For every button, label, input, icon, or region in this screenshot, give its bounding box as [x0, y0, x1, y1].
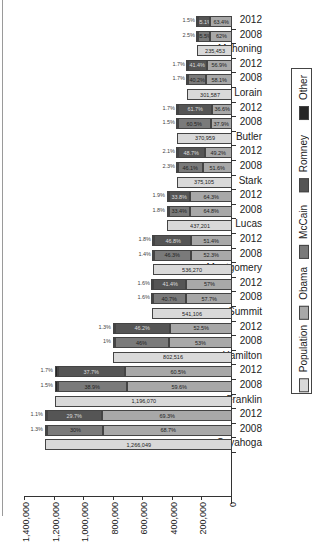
obama-pct-label: 37.9%	[214, 121, 230, 127]
population-bar: 235,453	[221, 45, 232, 56]
romney-segment: 29.7%	[47, 410, 103, 421]
mccain-segment: 60.5%	[178, 118, 211, 129]
year-label: 2008	[240, 160, 262, 171]
obama-segment: 56.9%	[207, 60, 232, 71]
rep-pct-label: 35.1%	[198, 19, 210, 25]
population-value: 536,270	[182, 267, 202, 273]
other-pct-label: 1.8%	[153, 207, 166, 213]
obama-pct-label: 56.9%	[212, 62, 228, 68]
election-bar: 36.6%61.7%	[221, 104, 232, 115]
obama-segment: 68.7%	[103, 425, 232, 436]
year-label: 2008	[240, 379, 262, 390]
mccain-segment: 35.5%	[198, 31, 210, 42]
value-tick-label: 1,000,000	[80, 502, 90, 542]
population-bar: 1,266,049	[221, 439, 232, 450]
rep-pct-label: 46.2%	[135, 325, 151, 331]
rep-pct-label: 29.7%	[67, 413, 83, 419]
election-bar: 62%35.5%	[221, 31, 232, 42]
election-bar: 64.8%33.4%	[221, 206, 232, 217]
year-label: 2008	[240, 29, 262, 40]
value-tick-label: 0	[228, 502, 238, 507]
rep-pct-label: 46.3%	[164, 252, 180, 258]
obama-segment: 59.6%	[127, 381, 232, 392]
other-segment	[151, 293, 153, 304]
obama-pct-label: 57.7%	[201, 296, 217, 302]
population-segment: 301,587	[187, 89, 232, 100]
population-segment: 536,270	[153, 264, 232, 275]
other-segment	[152, 250, 154, 261]
mccain-segment: 46.1%	[178, 162, 204, 173]
county-label: Summit	[228, 306, 262, 317]
county-label: Butler	[236, 131, 262, 142]
other-pct-label: 1.5%	[163, 119, 176, 125]
population-segment: 370,959	[177, 133, 232, 144]
value-tick-label: 600,000	[139, 502, 149, 535]
election-bar: 69.3%29.7%	[221, 410, 232, 421]
population-segment: 235,453	[197, 45, 232, 56]
rep-pct-label: 33.8%	[172, 194, 188, 200]
legend-swatch	[299, 378, 309, 392]
value-tick-mark	[231, 496, 232, 500]
value-tick-mark	[113, 496, 114, 500]
obama-pct-label: 36.6%	[214, 106, 230, 112]
romney-segment: 61.7%	[178, 104, 212, 115]
rep-pct-label: 46%	[136, 340, 147, 346]
obama-segment: 57%	[186, 279, 232, 290]
obama-pct-label: 49.2%	[211, 150, 227, 156]
obama-pct-label: 58.1%	[211, 77, 227, 83]
other-segment	[186, 74, 188, 85]
value-tick-label: 400,000	[169, 502, 179, 535]
value-tick-label: 1,200,000	[51, 502, 61, 542]
other-segment	[176, 162, 178, 173]
obama-segment: 51.6%	[203, 162, 232, 173]
category-tick-mark	[232, 379, 236, 380]
year-label: 2008	[240, 116, 262, 127]
election-bar: 49.2%48.7%	[221, 147, 232, 158]
category-tick-mark	[232, 204, 236, 205]
mccain-segment: 38.9%	[58, 381, 127, 392]
legend-label: Population	[298, 325, 309, 372]
election-bar: 51.4%46.8%	[221, 235, 232, 246]
population-segment: 541,106	[152, 308, 232, 319]
population-value: 802,516	[163, 354, 183, 360]
population-value: 235,453	[205, 48, 225, 54]
other-pct-label: 1.7%	[163, 105, 176, 111]
election-bar: 52.5%46.2%	[221, 323, 232, 334]
romney-segment: 41.4%	[153, 279, 186, 290]
other-segment	[186, 60, 188, 71]
value-tick-label: 800,000	[110, 502, 120, 535]
population-bar: 437,201	[221, 220, 232, 231]
other-segment	[176, 104, 178, 115]
rep-pct-label: 33.4%	[172, 208, 188, 214]
obama-pct-label: 52.3%	[203, 252, 219, 258]
romney-segment: 35.1%	[198, 16, 210, 27]
year-label: 2008	[240, 72, 262, 83]
obama-segment: 69.3%	[102, 410, 232, 421]
election-bar: 57.7%40.7%	[221, 293, 232, 304]
other-segment	[176, 118, 178, 129]
legend-label: Romney	[298, 135, 309, 172]
year-label: 2012	[240, 58, 262, 69]
population-segment: 1,196,070	[55, 396, 232, 407]
rep-pct-label: 38.9%	[84, 384, 100, 390]
legend-swatch	[299, 245, 309, 259]
legend-item-mccain: McCain	[298, 205, 309, 259]
obama-pct-label: 68.7%	[160, 427, 176, 433]
other-segment	[55, 366, 58, 377]
other-segment	[45, 425, 47, 436]
legend-label: McCain	[298, 205, 309, 239]
other-pct-label: 1.8%	[138, 236, 151, 242]
population-segment: 437,201	[167, 220, 232, 231]
year-label: 2008	[240, 423, 262, 434]
mccain-segment: 40.2%	[188, 74, 206, 85]
other-pct-label: 1.3%	[30, 426, 43, 432]
population-bar: 370,959	[221, 133, 232, 144]
category-tick-mark	[232, 102, 236, 103]
election-bar: 60.5%37.7%	[221, 366, 232, 377]
year-label: 2012	[240, 233, 262, 244]
obama-pct-label: 52.5%	[193, 325, 209, 331]
category-tick-mark	[232, 233, 236, 234]
obama-segment: 64.3%	[190, 191, 232, 202]
value-tick-mark	[83, 496, 84, 500]
